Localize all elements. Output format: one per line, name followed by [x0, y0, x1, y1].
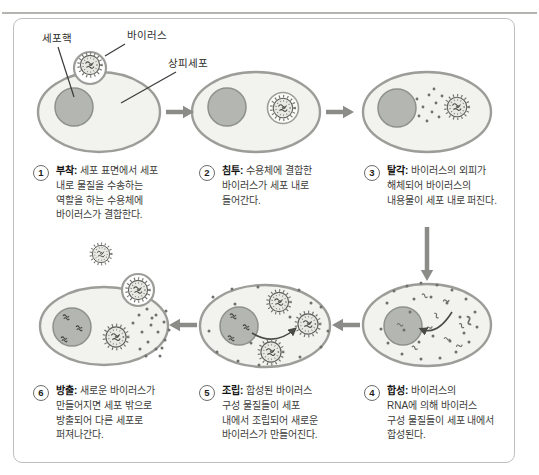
virus-lifecycle-figure: 세포핵 바이러스 상피세포 1 부착: 세포 표면에서 세포 내로 물질을 수송… — [0, 0, 539, 475]
step-text: 탈각: 바이러스의 외피가 해체되어 바이러스의 내용물이 세포 내로 퍼진다. — [387, 164, 497, 208]
step-title: 부착: — [56, 165, 77, 176]
step-title: 합성: — [387, 385, 408, 396]
label-nucleus: 세포핵 — [42, 30, 72, 45]
step-text: 침투: 수용체에 결합한 바이러스가 세포 내로 들어간다. — [222, 164, 312, 208]
label-virus: 바이러스 — [127, 27, 167, 42]
arrow-left-icon — [169, 319, 180, 331]
step-caption-5: 5 조립: 합성된 바이러스 구성 물질들이 세포 내에서 조립되어 새로운 바… — [199, 384, 357, 443]
nucleus-step3 — [378, 89, 416, 127]
step-caption-3: 3 탈각: 바이러스의 외피가 해체되어 바이러스의 내용물이 세포 내로 퍼진… — [364, 164, 522, 208]
nucleus-step6 — [53, 308, 91, 346]
pointer-line-virus — [105, 44, 125, 56]
cell-step4 — [363, 284, 491, 366]
label-epithelial-cell: 상피세포 — [168, 55, 208, 70]
nucleus-step5 — [220, 307, 258, 345]
nucleus-step1 — [55, 88, 93, 126]
step-number-badge: 2 — [199, 165, 215, 181]
step-title: 탈각: — [387, 165, 408, 176]
arrow-right-icon — [343, 106, 354, 118]
step-text: 조립: 합성된 바이러스 구성 물질들이 세포 내에서 조립되어 새로운 바이러… — [222, 384, 318, 443]
step-number-badge: 6 — [33, 385, 49, 401]
step-caption-2: 2 침투: 수용체에 결합한 바이러스가 세포 내로 들어간다. — [199, 164, 357, 208]
step-caption-6: 6 방출: 새로운 바이러스가 만들어지면 세포 밖으로 방출되어 다른 세포로… — [33, 384, 191, 443]
arrow-down-icon — [421, 270, 433, 281]
step-number-badge: 5 — [199, 385, 215, 401]
step-caption-1: 1 부착: 세포 표면에서 세포 내로 물질을 수송하는 역할을 하는 수용체에… — [33, 164, 191, 223]
arrow-left-icon — [332, 319, 343, 331]
step-caption-4: 4 합성: 바이러스의 RNA에 의해 바이러스 구성 물질들이 세포 내에서 … — [364, 384, 522, 443]
nucleus-step4 — [384, 307, 422, 345]
step-title: 침투: — [222, 165, 243, 176]
step-text: 합성: 바이러스의 RNA에 의해 바이러스 구성 물질들이 세포 내에서 합성… — [387, 384, 494, 443]
step-text: 부착: 세포 표면에서 세포 내로 물질을 수송하는 역할을 하는 수용체에 바… — [56, 164, 158, 223]
virus-icon — [91, 244, 112, 265]
step-number-badge: 4 — [364, 385, 380, 401]
step-number-badge: 1 — [33, 165, 49, 181]
nucleus-step2 — [208, 88, 246, 126]
step-number-badge: 3 — [364, 165, 380, 181]
step-text: 방출: 새로운 바이러스가 만들어지면 세포 밖으로 방출되어 다른 세포로 퍼… — [56, 384, 155, 443]
step-title: 방출: — [56, 385, 77, 396]
step-title: 조립: — [222, 385, 243, 396]
